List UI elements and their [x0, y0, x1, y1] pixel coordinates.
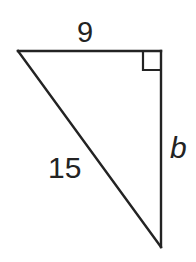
side-label-top: 9 [0, 18, 170, 47]
geometry-figure: 9 15 b [0, 0, 196, 262]
side-label-hypotenuse: 15 [48, 153, 81, 183]
side-label-vertical: b [170, 133, 187, 163]
